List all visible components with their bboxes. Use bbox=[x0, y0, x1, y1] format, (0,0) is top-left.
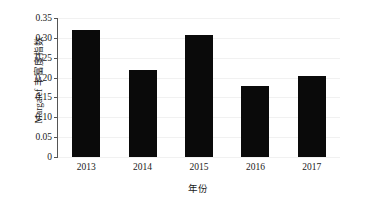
y-axis-tick bbox=[54, 97, 58, 98]
bar bbox=[241, 86, 269, 157]
y-axis-tick bbox=[54, 137, 58, 138]
y-axis-tick-label: 0.20 bbox=[35, 73, 52, 83]
y-axis-tick bbox=[54, 18, 58, 19]
x-axis-tick-label: 2017 bbox=[302, 162, 321, 172]
x-axis-tick-label: 2013 bbox=[77, 162, 96, 172]
gridline bbox=[58, 157, 340, 158]
x-axis-title: 年份 bbox=[57, 181, 339, 195]
y-axis-tick bbox=[54, 117, 58, 118]
y-axis-tick bbox=[54, 58, 58, 59]
y-axis-tick-label: 0.10 bbox=[35, 112, 52, 122]
y-axis-tick-label: 0.35 bbox=[35, 13, 52, 23]
plot-area: 00.050.100.150.200.250.300.3520132014201… bbox=[57, 18, 340, 158]
y-axis-tick bbox=[54, 38, 58, 39]
y-axis-tick-label: 0.25 bbox=[35, 53, 52, 63]
y-axis-tick-label: 0 bbox=[47, 152, 52, 162]
x-axis-tick-label: 2016 bbox=[246, 162, 265, 172]
y-axis-tick-label: 0.05 bbox=[35, 132, 52, 142]
x-axis-tick-label: 2014 bbox=[133, 162, 152, 172]
y-axis-tick bbox=[54, 157, 58, 158]
bar-chart-figure: Margalef 丰富度指数 00.050.100.150.200.250.30… bbox=[0, 0, 367, 202]
y-axis-tick-label: 0.30 bbox=[35, 33, 52, 43]
bar bbox=[185, 35, 213, 157]
bar bbox=[298, 76, 326, 157]
x-axis-tick-label: 2015 bbox=[190, 162, 209, 172]
bar bbox=[129, 70, 157, 157]
y-axis-tick-label: 0.15 bbox=[35, 92, 52, 102]
bar bbox=[72, 30, 100, 157]
y-axis-tick bbox=[54, 78, 58, 79]
gridline bbox=[58, 18, 340, 19]
